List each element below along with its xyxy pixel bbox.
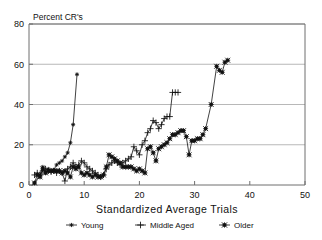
legend-marker-middle-aged	[137, 222, 144, 229]
legend-marker-older	[222, 222, 227, 227]
datapoint-young-14	[75, 72, 79, 76]
legend-marker-young	[69, 223, 73, 227]
x-tick-label-20: 20	[134, 190, 144, 200]
datapoint-older-66	[220, 70, 225, 75]
datapoint-young-13	[71, 123, 75, 127]
datapoint-older-68	[225, 58, 230, 63]
datapoint-middle-aged-49	[167, 113, 173, 119]
datapoint-middle-aged-45	[156, 126, 162, 132]
y-tick-label-60: 60	[14, 60, 24, 70]
datapoint-young-12	[68, 141, 72, 145]
datapoint-middle-aged-52	[175, 89, 181, 95]
datapoint-middle-aged-38	[136, 152, 142, 158]
datapoint-older-63	[209, 102, 214, 107]
datapoint-middle-aged-40	[142, 138, 148, 144]
datapoint-older-60	[198, 136, 203, 141]
percent-crs-line-chart: 02040608001020304050Percent CR'sStandard…	[0, 0, 322, 240]
y-tick-label-40: 40	[14, 100, 24, 110]
datapoint-older-3	[40, 166, 45, 171]
datapoint-middle-aged-39	[139, 142, 145, 148]
y-axis-corner-label: Percent CR's	[33, 12, 83, 22]
x-tick-label-50: 50	[300, 190, 310, 200]
datapoint-older-44	[153, 158, 158, 163]
datapoint-older-16	[76, 164, 81, 169]
datapoint-older-62	[203, 126, 208, 131]
chart-figure: 02040608001020304050Percent CR'sStandard…	[0, 0, 322, 240]
datapoint-middle-aged-41	[145, 130, 151, 136]
datapoint-older-25	[101, 172, 106, 177]
datapoint-middle-aged-42	[147, 126, 153, 132]
datapoint-young-10	[63, 155, 67, 159]
datapoint-older-2	[38, 174, 43, 179]
datapoint-young-9	[60, 159, 64, 163]
datapoint-older-26	[104, 164, 109, 169]
datapoint-middle-aged-37	[134, 148, 140, 154]
datapoint-older-43	[151, 150, 156, 155]
x-tick-label-40: 40	[245, 190, 255, 200]
datapoint-older-49	[167, 136, 172, 141]
datapoint-older-31	[118, 160, 123, 165]
x-tick-label-0: 0	[26, 190, 31, 200]
datapoint-older-54	[181, 128, 186, 133]
legend-label-middle-aged: Middle Aged	[150, 221, 194, 230]
datapoint-older-42	[148, 144, 153, 149]
y-tick-label-20: 20	[14, 140, 24, 150]
legend-label-older: Older	[234, 221, 254, 230]
datapoint-older-55	[184, 134, 189, 139]
datapoint-older-0	[32, 181, 37, 186]
x-tick-label-10: 10	[79, 190, 89, 200]
datapoint-young-11	[66, 151, 70, 155]
datapoint-older-13	[68, 174, 73, 179]
datapoint-middle-aged-11	[62, 178, 68, 184]
datapoint-young-8	[57, 161, 61, 165]
datapoint-older-64	[214, 64, 219, 69]
datapoint-older-40	[142, 170, 147, 175]
y-tick-label-0: 0	[19, 180, 24, 190]
datapoint-young-7	[55, 163, 59, 167]
datapoint-older-61	[200, 132, 205, 137]
datapoint-older-48	[165, 140, 170, 145]
y-tick-label-80: 80	[14, 19, 24, 29]
legend-label-young: Young	[81, 221, 103, 230]
datapoint-older-12	[65, 170, 70, 175]
x-tick-label-30: 30	[190, 190, 200, 200]
x-axis-title: Standardized Average Trials	[96, 203, 238, 215]
datapoint-older-56	[187, 152, 192, 157]
datapoint-middle-aged-46	[158, 122, 164, 128]
